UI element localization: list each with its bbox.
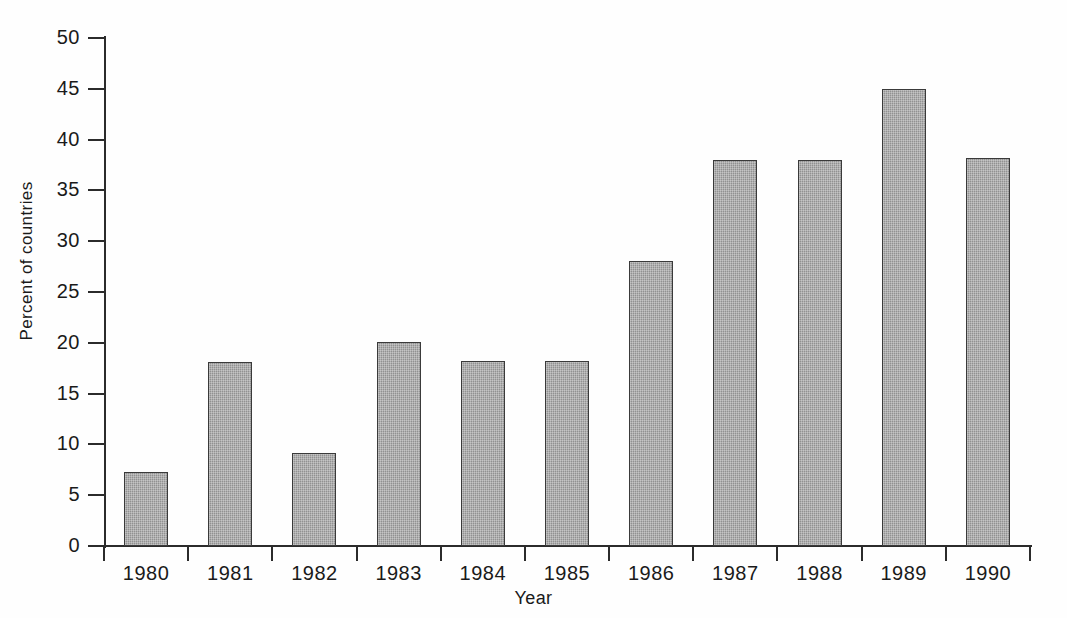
x-tick-label-1984: 1984 <box>438 562 528 584</box>
y-tick-label-20: 20 <box>34 332 80 352</box>
y-tick-45 <box>88 88 104 90</box>
y-tick-10 <box>88 443 104 445</box>
y-tick-label-5: 5 <box>34 484 80 504</box>
x-tick-label-1989: 1989 <box>859 562 949 584</box>
x-tick-label-1988: 1988 <box>775 562 865 584</box>
y-tick-label-30: 30 <box>34 230 80 250</box>
x-tick-label-1983: 1983 <box>354 562 444 584</box>
bar-1990 <box>966 158 1010 546</box>
x-tick-8 <box>776 547 778 561</box>
y-tick-label-40: 40 <box>34 129 80 149</box>
x-tick-0 <box>103 547 105 561</box>
y-tick-35 <box>88 189 104 191</box>
x-tick-4 <box>440 547 442 561</box>
x-tick-label-1990: 1990 <box>943 562 1033 584</box>
bar-1981 <box>208 362 252 546</box>
y-tick-label-10: 10 <box>34 433 80 453</box>
x-tick-label-1981: 1981 <box>185 562 275 584</box>
y-tick-label-35: 35 <box>34 179 80 199</box>
y-tick-30 <box>88 240 104 242</box>
bar-1989 <box>882 89 926 546</box>
x-tick-3 <box>356 547 358 561</box>
bar-chart-figure: 05101520253035404550 Percent of countrie… <box>0 0 1067 618</box>
y-tick-label-25: 25 <box>34 281 80 301</box>
y-tick-label-50: 50 <box>34 27 80 47</box>
y-tick-label-45: 45 <box>34 78 80 98</box>
bar-1983 <box>377 342 421 546</box>
y-tick-15 <box>88 393 104 395</box>
x-tick-label-1985: 1985 <box>522 562 612 584</box>
bar-1980 <box>124 472 168 546</box>
y-axis-title: Percent of countries <box>17 161 37 361</box>
y-tick-0 <box>88 545 104 547</box>
x-tick-5 <box>524 547 526 561</box>
y-tick-label-15: 15 <box>34 383 80 403</box>
plot-area <box>104 38 1030 546</box>
x-tick-9 <box>861 547 863 561</box>
y-tick-5 <box>88 494 104 496</box>
x-tick-label-1987: 1987 <box>690 562 780 584</box>
x-tick-11 <box>1029 547 1031 561</box>
y-tick-20 <box>88 342 104 344</box>
x-axis-title: Year <box>0 588 1067 609</box>
bar-1982 <box>292 453 336 546</box>
y-tick-label-0: 0 <box>34 535 80 555</box>
bar-1988 <box>798 160 842 546</box>
bar-1984 <box>461 361 505 546</box>
x-tick-label-1980: 1980 <box>101 562 191 584</box>
x-tick-10 <box>945 547 947 561</box>
y-tick-40 <box>88 139 104 141</box>
x-tick-6 <box>608 547 610 561</box>
x-tick-2 <box>271 547 273 561</box>
bar-1985 <box>545 361 589 546</box>
y-tick-50 <box>88 37 104 39</box>
x-tick-1 <box>187 547 189 561</box>
x-tick-label-1982: 1982 <box>269 562 359 584</box>
bar-1986 <box>629 261 673 546</box>
x-tick-label-1986: 1986 <box>606 562 696 584</box>
bar-1987 <box>713 160 757 546</box>
x-tick-7 <box>692 547 694 561</box>
y-tick-25 <box>88 291 104 293</box>
